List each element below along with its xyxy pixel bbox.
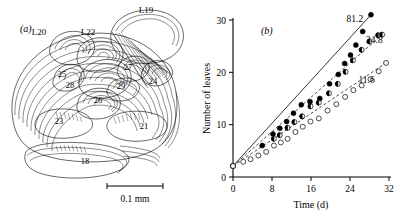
- scale-bar-label: 0.1 mm: [120, 194, 150, 204]
- data-point: [376, 69, 381, 74]
- data-point: [278, 140, 283, 145]
- data-point: [368, 12, 373, 17]
- label-primordium-25: 25: [58, 69, 67, 79]
- data-point-half: [277, 133, 280, 138]
- y-axis-title: Number of leaves: [201, 63, 212, 134]
- data-point-half: [343, 69, 346, 74]
- label-primordium-18: 18: [81, 156, 90, 166]
- data-point-half: [335, 81, 338, 86]
- leaf-21-hatching: [114, 113, 140, 124]
- x-tick-label: 24: [345, 184, 355, 194]
- data-point: [231, 164, 236, 169]
- y-tick-label: 30: [217, 16, 227, 26]
- label-primordium-21: 21: [140, 121, 149, 131]
- series-label-11.6: 11.6: [358, 75, 375, 85]
- data-point: [270, 132, 275, 137]
- panel-b-letter: (b): [261, 25, 273, 37]
- label-primordium-26: 26: [94, 95, 103, 105]
- data-point: [343, 94, 348, 99]
- label-primordium-27: 27: [124, 62, 133, 72]
- chart-plot-area: 010203008162432Time (d)Number of leaves(…: [201, 12, 394, 211]
- y-tick-label: 0: [221, 173, 226, 183]
- data-point: [308, 119, 313, 124]
- data-point: [336, 72, 341, 77]
- scale-bar: [107, 183, 163, 189]
- data-point-half: [359, 47, 362, 52]
- data-point-half: [350, 58, 353, 63]
- series-fit-line: [233, 35, 382, 166]
- data-point: [334, 102, 339, 107]
- leaf-L19: [111, 10, 184, 88]
- data-point: [384, 60, 389, 65]
- series-11.6: 11.6: [231, 60, 389, 168]
- data-point: [348, 53, 353, 58]
- data-point: [271, 143, 276, 148]
- data-point: [293, 129, 298, 134]
- leaf-number-chart: 010203008162432Time (d)Number of leaves(…: [201, 0, 403, 222]
- label-L19: L19: [139, 5, 154, 15]
- data-point-half: [316, 100, 319, 105]
- data-point: [342, 61, 347, 66]
- panel-a-letter: (a): [20, 23, 32, 35]
- data-point: [256, 153, 261, 158]
- data-point: [325, 108, 330, 113]
- data-point-half: [327, 91, 330, 96]
- series-label-81.2: 81.2: [347, 14, 364, 24]
- x-tick-label: 16: [306, 184, 316, 194]
- base-rings: [120, 146, 160, 166]
- x-tick-label: 0: [231, 184, 236, 194]
- data-point: [353, 43, 358, 48]
- data-point-half: [308, 104, 311, 109]
- label-primordium-29: 29: [117, 81, 126, 91]
- panel-b-growth-chart: 010203008162432Time (d)Number of leaves(…: [201, 0, 403, 222]
- y-tick-label: 20: [217, 68, 227, 78]
- data-point: [241, 159, 246, 164]
- x-axis-title: Time (d): [294, 199, 329, 211]
- x-tick-label: 8: [270, 184, 275, 194]
- series-label-34.8: 34.8: [366, 35, 383, 45]
- label-primordium-28: 28: [66, 80, 75, 90]
- data-point: [264, 149, 269, 154]
- data-point: [285, 136, 290, 141]
- data-point: [299, 102, 304, 107]
- data-point: [248, 157, 253, 162]
- label-L20: L20: [32, 27, 47, 37]
- panel-a-meristem-diagram: (a) L19 L20 L22 25 27 28 29 24 26 23 21 …: [0, 0, 201, 222]
- y-tick-label: 10: [217, 120, 227, 130]
- leaf-18: [25, 142, 129, 178]
- meristem-drawing: (a) L19 L20 L22 25 27 28 29 24 26 23 21 …: [0, 0, 201, 222]
- leaf-18-hatching: [56, 145, 86, 153]
- data-point-half: [300, 114, 303, 119]
- data-point: [316, 116, 321, 121]
- series-fit-line: [233, 15, 371, 166]
- data-point: [360, 29, 365, 34]
- series-34.8: 34.8: [231, 32, 385, 168]
- label-L22: L22: [81, 27, 96, 37]
- data-point: [351, 88, 356, 93]
- data-point-half: [292, 120, 295, 125]
- label-primordium-23: 23: [55, 116, 64, 126]
- x-tick-label: 32: [384, 184, 394, 194]
- right-flank-rings: [152, 92, 180, 148]
- figure-container: (a) L19 L20 L22 25 27 28 29 24 26 23 21 …: [0, 0, 403, 222]
- label-primordium-24: 24: [149, 76, 158, 86]
- data-point: [300, 124, 305, 129]
- data-point: [284, 119, 289, 124]
